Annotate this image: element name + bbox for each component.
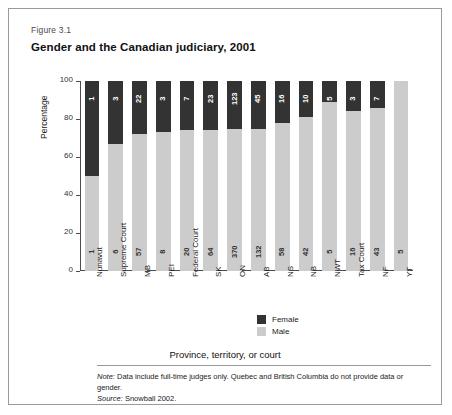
- bar-value-male: 42: [302, 247, 310, 255]
- bar-column[interactable]: 2257: [132, 81, 147, 271]
- x-axis-label-yt: YT: [405, 267, 414, 277]
- bar-column[interactable]: 1658: [275, 81, 290, 271]
- bar-segment-male: 58: [275, 123, 290, 271]
- bar-segment-female: 3: [156, 81, 171, 132]
- bar-value-female: 1: [88, 97, 96, 101]
- bar-value-male: 64: [207, 247, 215, 255]
- bar-segment-female: 1: [85, 81, 100, 176]
- bar-value-female: 7: [183, 97, 191, 101]
- bar-segment-male: 42: [299, 117, 314, 271]
- x-axis-title: Province, territory, or court: [9, 349, 441, 360]
- bar-value-female: 3: [350, 97, 358, 101]
- bar-segment-male: 5: [394, 81, 409, 271]
- figure-note: Note: Data include full-time judges only…: [97, 372, 427, 405]
- bar-value-male: 132: [255, 245, 263, 258]
- y-tick-label: 100: [60, 75, 73, 84]
- y-tick-label: 20: [64, 227, 73, 236]
- y-tick-mark-icon: [76, 195, 80, 196]
- legend-swatch-female-icon: [257, 315, 266, 324]
- x-axis-label-ab: AB: [262, 266, 271, 277]
- y-axis-title: Percentage: [39, 96, 49, 139]
- x-axis-label-on: ON: [238, 265, 247, 277]
- bar-value-female: 16: [278, 95, 286, 103]
- y-tick-mark-icon: [76, 119, 80, 120]
- bar-segment-female: 3: [108, 81, 123, 144]
- bar-segment-female: 7: [370, 81, 385, 108]
- bar-value-female: 10: [302, 95, 310, 103]
- x-axis-label-federal-court: Federal Court: [191, 228, 200, 277]
- legend-item-female: Female: [257, 315, 299, 324]
- x-axis-label-tax-court: Tax Court: [357, 243, 366, 277]
- y-tick-label: 60: [64, 151, 73, 160]
- y-tick-mark-icon: [76, 81, 80, 82]
- bar-value-male: 57: [136, 247, 144, 255]
- bar-value-male: 370: [231, 245, 239, 258]
- figure-title: Gender and the Canadian judiciary, 2001: [31, 41, 256, 53]
- source-line: Source: Snowball 2002.: [97, 394, 427, 405]
- bar-value-male: 43: [374, 247, 382, 255]
- x-axis-label-ns: NS: [286, 266, 295, 277]
- source-text: Snowball 2002.: [123, 394, 176, 403]
- x-axis-label-sk: SK: [214, 266, 223, 277]
- bar-column[interactable]: 11: [85, 81, 100, 271]
- legend-label-male: Male: [272, 327, 289, 336]
- note-line: Note: Data include full-time judges only…: [97, 372, 427, 394]
- bar-value-female: 123: [231, 92, 239, 105]
- x-axis-label-mb: MB: [143, 265, 152, 277]
- bar-value-male: 20: [183, 247, 191, 255]
- bar-value-female: 5: [326, 97, 334, 101]
- legend-label-female: Female: [272, 315, 299, 324]
- source-prefix: Source:: [97, 394, 123, 403]
- bar-segment-female: 5: [322, 81, 337, 102]
- bar-column[interactable]: 123370: [227, 81, 242, 271]
- bar-segment-female: 45: [251, 81, 266, 129]
- figure-frame: Figure 3.1 Gender and the Canadian judic…: [8, 8, 442, 405]
- bar-value-male: 5: [397, 249, 405, 253]
- chart-legend: Female Male: [257, 315, 299, 339]
- footer-divider: [97, 365, 431, 366]
- plot-area: 020406080100 113622573872023641233704513…: [80, 81, 413, 271]
- x-axis-label-supreme-court: Supreme Court: [119, 223, 128, 277]
- bar-column[interactable]: 38: [156, 81, 171, 271]
- bar-column[interactable]: 5: [394, 81, 409, 271]
- bar-column[interactable]: 743: [370, 81, 385, 271]
- bar-segment-female: 16: [275, 81, 290, 123]
- note-text: Data include full-time judges only. Queb…: [97, 372, 403, 392]
- bar-segment-male: 43: [370, 108, 385, 271]
- bar-value-female: 3: [159, 97, 167, 101]
- bar-segment-male: 64: [203, 130, 218, 271]
- x-axis-label-pei: PEI: [167, 264, 176, 277]
- y-tick-mark-icon: [76, 157, 80, 158]
- bar-segment-male: 370: [227, 129, 242, 272]
- bar-value-male: 58: [278, 247, 286, 255]
- bar-segment-female: 23: [203, 81, 218, 130]
- bar-value-female: 3: [112, 97, 120, 101]
- y-tick-mark-icon: [76, 233, 80, 234]
- bar-segment-male: 5: [322, 102, 337, 271]
- bar-value-female: 7: [374, 97, 382, 101]
- bar-value-female: 45: [255, 95, 263, 103]
- bar-segment-male: 57: [132, 134, 147, 271]
- legend-item-male: Male: [257, 327, 299, 336]
- figure-number: Figure 3.1: [31, 25, 71, 35]
- y-tick-label: 0: [69, 265, 73, 274]
- bar-value-male: 5: [326, 249, 334, 253]
- bar-value-male: 8: [159, 249, 167, 253]
- note-prefix: Note:: [97, 372, 115, 381]
- y-tick-label: 40: [64, 189, 73, 198]
- bar-value-female: 23: [207, 95, 215, 103]
- y-tick-mark-icon: [76, 271, 80, 272]
- x-axis-label-nf: NF: [381, 266, 390, 277]
- legend-swatch-male-icon: [257, 327, 266, 336]
- bar-column[interactable]: 55: [322, 81, 337, 271]
- bar-column[interactable]: 2364: [203, 81, 218, 271]
- bar-column[interactable]: 1042: [299, 81, 314, 271]
- x-axis-label-nwt: NWT: [333, 259, 342, 277]
- bar-value-female: 22: [136, 95, 144, 103]
- bar-segment-female: 7: [180, 81, 195, 130]
- bar-column[interactable]: 45132: [251, 81, 266, 271]
- x-axis-label-nunavut: Nunavut: [95, 247, 104, 277]
- bar-segment-female: 22: [132, 81, 147, 134]
- bar-segment-female: 10: [299, 81, 314, 117]
- bar-segment-male: 132: [251, 129, 266, 272]
